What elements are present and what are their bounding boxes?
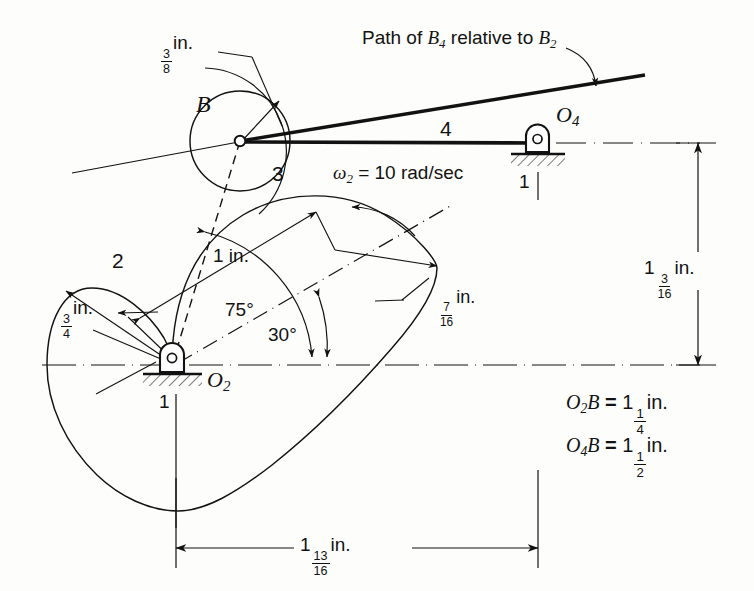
roller-center-pin-b [235, 136, 246, 147]
angle-arc-30 [319, 297, 327, 357]
equation-o2b-lhs: O2B [566, 391, 599, 413]
fraction-three-eighths: 3 8 [161, 48, 172, 76]
label-path-note: Path of B4 relative to B2 [362, 28, 557, 51]
fraction-three-sixteenths: 3 16 [656, 273, 674, 301]
dim-horizontal-1-13-16 [176, 470, 538, 568]
fraction-three-quarters: 3 4 [61, 313, 72, 341]
figure-canvas: 3 8 in. B 3 4 2 Path of B4 relative to B… [0, 0, 754, 591]
label-pivot-o4: O4 [556, 104, 579, 129]
label-link-4: 4 [440, 118, 452, 139]
label-horizontal-span: 1 13 16 in. [300, 535, 351, 578]
label-ground-1-left: 1 [159, 392, 170, 411]
tangent-line-through-b [72, 141, 244, 173]
label-one-inch: 1 in. [213, 246, 249, 265]
fraction-thirteen-sixteenths: 13 16 [312, 550, 330, 578]
dim-seven-sixteenths [335, 250, 437, 301]
label-ground-1-right: 1 [519, 172, 530, 191]
dim-roller-radius-arrow [218, 52, 282, 142]
mechanism-diagram-svg [0, 0, 754, 591]
label-angle-30: 30° [268, 325, 297, 344]
fraction-seven-sixteenths: 7 16 [438, 302, 455, 329]
label-cam-min-radius: 3 4 in. [60, 298, 93, 341]
label-link-2: 2 [112, 250, 124, 271]
label-omega-2: ω2 = 10 rad/sec [333, 163, 463, 186]
fraction-one-half: 1 2 [634, 450, 645, 479]
label-roller-b: B [196, 92, 211, 116]
equation-o4b-lhs: O4B [566, 434, 599, 456]
path-note-leader-arrow [566, 48, 596, 86]
cam-link-2-outline [47, 196, 437, 511]
label-angle-75: 75° [225, 300, 254, 319]
equation-o4b: O4B = 1 1 2 in. [566, 435, 668, 479]
label-roller-radius: 3 8 in. [160, 33, 193, 76]
path-note-b4: B4 [428, 27, 446, 48]
label-pivot-o2: O2 [207, 369, 230, 394]
ground-pivot-o4 [511, 125, 565, 167]
cam-major-axis-30deg [178, 205, 452, 363]
ground-pivot-o2 [96, 343, 202, 394]
omega-symbol: ω2 [333, 162, 353, 183]
path-note-b2: B2 [539, 27, 557, 48]
fraction-one-quarter: 1 4 [634, 407, 645, 436]
dim-vertical-1-3-16 [676, 143, 716, 365]
label-vertical-offset: 1 3 16 in. [644, 258, 695, 301]
label-seven-sixteenths: 7 16 in. [437, 288, 475, 329]
equation-o2b: O2B = 1 1 4 in. [566, 392, 668, 436]
dim-one-inch [118, 212, 335, 362]
label-link-3: 3 [272, 163, 284, 184]
